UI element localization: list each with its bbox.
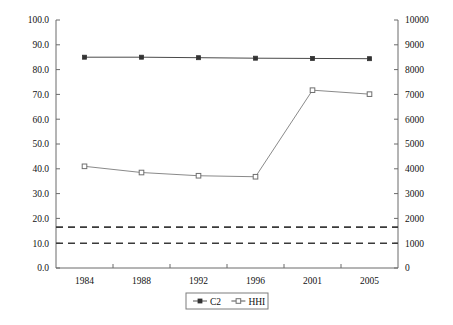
y-axis-left-tick-label: 50.0 [32, 139, 49, 149]
data-point-hhi[interactable] [82, 164, 87, 169]
data-point-hhi[interactable] [196, 173, 201, 178]
y-axis-left-tick-label: 40.0 [32, 164, 49, 174]
legend-label-hhi: HHI [248, 297, 265, 307]
y-axis-right-tick-label: 4000 [405, 164, 424, 174]
y-axis-left-tick-label: 10.0 [32, 239, 49, 249]
series-line-c2 [85, 57, 370, 58]
data-point-c2[interactable] [311, 56, 315, 60]
y-axis-right-tick-label: 7000 [405, 90, 424, 100]
y-axis-right-tick-label: 9000 [405, 40, 424, 50]
y-axis-left-tick-label: 80.0 [32, 65, 49, 75]
x-axis-tick-label: 1996 [246, 276, 265, 286]
chart-container: 0.010.020.030.040.050.060.070.080.090.01… [0, 0, 453, 325]
data-point-hhi[interactable] [139, 170, 144, 175]
y-axis-right-tick-label: 8000 [405, 65, 424, 75]
y-axis-left-tick-label: 90.0 [32, 40, 49, 50]
y-axis-right-tick-label: 5000 [405, 139, 424, 149]
y-axis-left-tick-label: 60.0 [32, 115, 49, 125]
data-point-hhi[interactable] [310, 88, 315, 93]
y-axis-right-tick-label: 6000 [405, 115, 424, 125]
series-line-hhi [85, 90, 370, 177]
y-axis-left-tick-label: 70.0 [32, 90, 49, 100]
y-axis-right-tick-label: 2000 [405, 214, 424, 224]
y-axis-left-tick-label: 30.0 [32, 189, 49, 199]
x-axis-tick-label: 1984 [75, 276, 94, 286]
y-axis-left-tick-label: 0.0 [37, 263, 49, 273]
data-point-c2[interactable] [254, 56, 258, 60]
data-point-hhi[interactable] [367, 92, 372, 97]
y-axis-left-tick-label: 20.0 [32, 214, 49, 224]
y-axis-right-tick-label: 10000 [405, 15, 429, 25]
y-axis-right-tick-label: 1000 [405, 239, 424, 249]
y-axis-left-tick-label: 100.0 [28, 15, 50, 25]
line-chart: 0.010.020.030.040.050.060.070.080.090.01… [0, 0, 453, 325]
legend-marker-hhi [236, 299, 241, 304]
legend-marker-c2 [198, 299, 202, 303]
x-axis-tick-label: 2001 [303, 276, 322, 286]
data-point-hhi[interactable] [253, 174, 258, 179]
legend-label-c2: C2 [210, 297, 221, 307]
data-point-c2[interactable] [83, 55, 87, 59]
x-axis-tick-label: 1988 [132, 276, 151, 286]
x-axis-tick-label: 1992 [189, 276, 208, 286]
x-axis-tick-label: 2005 [360, 276, 379, 286]
y-axis-right-tick-label: 3000 [405, 189, 424, 199]
data-point-c2[interactable] [140, 55, 144, 59]
data-point-c2[interactable] [197, 56, 201, 60]
y-axis-right-tick-label: 0 [405, 263, 410, 273]
data-point-c2[interactable] [368, 57, 372, 61]
